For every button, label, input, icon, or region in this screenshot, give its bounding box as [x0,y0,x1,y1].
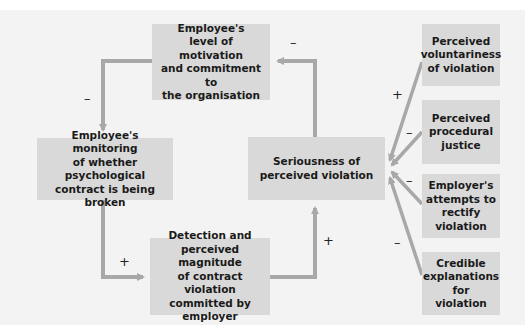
node-explanations: Credible explanations for violation [422,252,500,315]
arrow-detection-to-seriousness [270,208,315,277]
sign-detection-to-seriousness: + [323,234,334,247]
sign-explanations-to-seriousness: – [394,236,401,249]
sign-monitoring-to-detection: + [119,255,130,268]
sign-motivation-to-monitoring: – [84,92,91,105]
node-procedural-justice: Perceived procedural justice [422,100,500,164]
sign-seriousness-to-motivation: – [290,36,297,49]
arrow-voluntariness-to-seriousness [390,62,422,160]
arrow-explanations-to-seriousness [390,178,422,275]
node-monitoring: Employee's monitoring of whether psychol… [37,138,173,200]
sign-voluntariness-to-seriousness: + [392,88,403,101]
sign-procedural-to-seriousness: – [406,126,413,139]
arrow-motivation-to-monitoring [103,61,152,130]
node-rectify: Employer's attempts to rectify violation [422,174,500,238]
arrow-seriousness-to-motivation [278,61,315,137]
node-detection: Detection and perceived magnitude of con… [150,238,270,315]
node-voluntariness: Perceived voluntariness of violation [422,24,500,86]
sign-rectify-to-seriousness: – [406,174,413,187]
node-seriousness: Seriousness of perceived violation [248,137,385,200]
node-motivation: Employee's level of motivation and commi… [152,24,270,100]
